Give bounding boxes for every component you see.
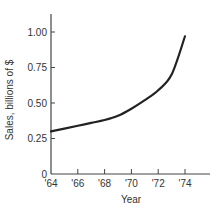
x-tick-label: '68 — [98, 178, 111, 189]
x-tick-label: '66 — [71, 178, 84, 189]
sales-line — [51, 36, 185, 131]
y-tick-label: 1.00 — [28, 27, 48, 38]
y-axis-title: Sales, billions of $ — [4, 59, 15, 140]
x-ticks: '64'66'68'70'72'74 — [44, 169, 191, 189]
y-tick-label: 0.75 — [28, 62, 48, 73]
x-axis-title: Year — [121, 194, 142, 205]
y-tick-label: 0.50 — [28, 98, 48, 109]
chart: 00.250.500.751.00 '64'66'68'70'72'74 Yea… — [0, 0, 224, 215]
x-tick-label: '70 — [125, 178, 138, 189]
x-tick-label: '74 — [178, 178, 191, 189]
x-tick-label: '64 — [44, 178, 57, 189]
x-tick-label: '72 — [152, 178, 165, 189]
y-tick-label: 0.25 — [28, 133, 48, 144]
